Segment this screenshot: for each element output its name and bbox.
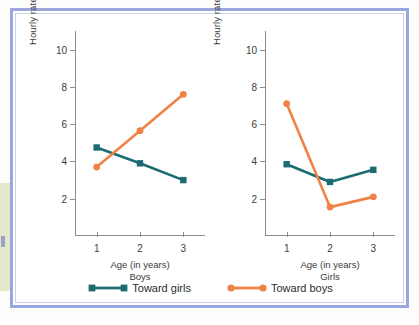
data-point [137, 127, 144, 134]
chart-panel-girls: Hourly rate of aggressive behaviors Age … [213, 23, 403, 268]
legend-item-toward-boys: Toward boys [225, 281, 333, 295]
data-point [283, 100, 290, 107]
y-tick-4 [70, 161, 76, 162]
x-tick-3 [373, 232, 374, 237]
y-tick-6 [70, 124, 76, 125]
data-point [327, 179, 333, 185]
series-lines-girls [265, 31, 395, 236]
y-tick-2 [260, 199, 266, 200]
data-point [93, 164, 100, 171]
x-tick-1 [97, 232, 98, 237]
x-tick-3 [183, 232, 184, 237]
y-axis-label-boys: Hourly rate of aggressive behaviors [27, 0, 38, 45]
x-tick-label-1: 1 [284, 243, 290, 254]
x-tick-label-3: 3 [371, 243, 377, 254]
y-tick-label-4: 4 [251, 156, 257, 167]
data-point [327, 204, 334, 211]
legend-marker-square-icon [86, 281, 130, 295]
y-tick-8 [70, 87, 76, 88]
x-tick-2 [330, 232, 331, 237]
y-tick-label-2: 2 [251, 193, 257, 204]
x-tick-2 [140, 232, 141, 237]
y-tick-10 [70, 50, 76, 51]
y-tick-label-8: 8 [251, 81, 257, 92]
y-tick-10 [260, 50, 266, 51]
legend-marker-circle-icon [225, 281, 269, 295]
y-tick-label-4: 4 [61, 156, 67, 167]
y-tick-6 [260, 124, 266, 125]
plot-area-boys: Age (in years) Boys 246810123 [75, 31, 205, 236]
y-tick-8 [260, 87, 266, 88]
x-axis-label-boys: Age (in years) [75, 259, 205, 270]
chart-legend: Toward girls Toward boys [13, 281, 406, 295]
y-tick-label-6: 6 [251, 119, 257, 130]
y-tick-4 [260, 161, 266, 162]
data-point [283, 161, 289, 167]
x-tick-1 [287, 232, 288, 237]
legend-label-toward-girls: Toward girls [132, 282, 191, 294]
legend-label-toward-boys: Toward boys [271, 282, 333, 294]
y-tick-2 [70, 199, 76, 200]
data-point [180, 91, 187, 98]
data-point [180, 177, 186, 183]
figure-root: Hourly rate of aggressive behaviors Age … [0, 0, 419, 325]
y-tick-label-10: 10 [56, 44, 67, 55]
x-tick-label-3: 3 [181, 243, 187, 254]
figure-frame: Hourly rate of aggressive behaviors Age … [10, 8, 409, 308]
x-tick-label-1: 1 [94, 243, 100, 254]
page-margin-mark [1, 236, 5, 247]
x-tick-label-2: 2 [327, 243, 333, 254]
plot-area-girls: Age (in years) Girls 246810123 [265, 31, 395, 236]
y-tick-label-10: 10 [246, 44, 257, 55]
x-tick-label-2: 2 [137, 243, 143, 254]
y-axis-label-girls: Hourly rate of aggressive behaviors [211, 0, 222, 45]
y-tick-label-8: 8 [61, 81, 67, 92]
legend-item-toward-girls: Toward girls [86, 281, 191, 295]
data-point [370, 193, 377, 200]
data-point [370, 167, 376, 173]
series-lines-boys [75, 31, 205, 236]
y-tick-label-2: 2 [61, 193, 67, 204]
series-line-toward-boys [287, 104, 374, 207]
x-axis-label-girls: Age (in years) [265, 259, 395, 270]
chart-panel-boys: Hourly rate of aggressive behaviors Age … [29, 23, 214, 268]
data-point [93, 144, 99, 150]
y-tick-label-6: 6 [61, 119, 67, 130]
data-point [137, 160, 143, 166]
